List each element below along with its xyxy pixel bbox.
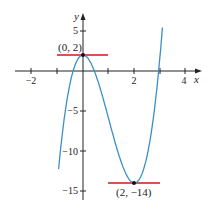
x-tick-label: −2 xyxy=(26,75,37,86)
cubic-function-chart: −2 2 4 x y 5 −5 −10 −15 (0, 2) (2, −14) xyxy=(0,0,217,216)
x-tick-label: 2 xyxy=(132,75,137,86)
local-min-label: (2, −14) xyxy=(116,186,152,199)
x-axis: −2 2 4 x xyxy=(15,68,202,86)
x-axis-label: x xyxy=(193,73,199,85)
y-tick-label: −15 xyxy=(62,185,78,196)
local-min-point xyxy=(132,181,136,185)
x-tick-label: 4 xyxy=(182,75,187,86)
y-tick-label: −5 xyxy=(67,105,78,116)
y-axis-label: y xyxy=(73,10,79,22)
y-tick-label: −10 xyxy=(62,146,78,157)
local-max-point xyxy=(81,53,85,57)
y-tick-label: 5 xyxy=(73,25,78,36)
local-max-label: (0, 2) xyxy=(58,41,82,54)
